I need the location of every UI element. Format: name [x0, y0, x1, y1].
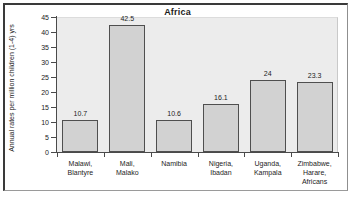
x-category-label-line: Malawi,: [57, 159, 104, 168]
y-tick-label: 0: [26, 149, 49, 156]
bar[interactable]: [297, 82, 333, 152]
bar[interactable]: [62, 120, 98, 152]
x-category-label: Namibia: [151, 159, 198, 168]
x-tick-mark: [291, 153, 292, 157]
x-category-label: Zimbabwe,Harare,Africans: [291, 159, 338, 186]
chart-title: Africa: [0, 7, 355, 17]
bar-chart-figure: Africa Annual rates per million children…: [0, 0, 355, 197]
y-tick-label: 25: [26, 74, 49, 81]
bar[interactable]: [203, 104, 239, 152]
y-tick-mark: [51, 122, 56, 123]
x-category-label-line: Kampala: [244, 168, 291, 177]
y-tick-label: 20: [26, 89, 49, 96]
x-category-label-line: Africans: [291, 177, 338, 186]
y-tick-mark: [51, 77, 56, 78]
y-tick-mark: [51, 137, 56, 138]
y-tick-mark: [51, 17, 56, 18]
y-tick-label: 15: [26, 104, 49, 111]
x-tick-mark: [151, 153, 152, 157]
x-tick-mark: [198, 153, 199, 157]
x-category-label-line: Blantyre: [57, 168, 104, 177]
x-tick-mark: [104, 153, 105, 157]
x-tick-mark: [338, 153, 339, 157]
x-category-label-line: Mali,: [104, 159, 151, 168]
x-category-label-line: Zimbabwe,: [291, 159, 338, 168]
x-category-label-line: Malako: [104, 168, 151, 177]
bar[interactable]: [109, 25, 145, 153]
y-tick-mark: [51, 32, 56, 33]
x-category-label-line: Harare,: [291, 168, 338, 177]
y-tick-label: 40: [26, 29, 49, 36]
bar[interactable]: [156, 120, 192, 152]
y-tick-label: 35: [26, 44, 49, 51]
bar-value-label: 42.5: [107, 15, 147, 23]
y-tick-mark: [51, 152, 56, 153]
y-tick-mark: [51, 92, 56, 93]
x-category-label-line: Namibia: [151, 159, 198, 168]
bar-value-label: 10.6: [154, 110, 194, 118]
x-category-label: Uganda,Kampala: [244, 159, 291, 177]
bar-value-label: 16.1: [201, 94, 241, 102]
bar-value-label: 23.3: [295, 72, 335, 80]
x-category-label: Nigeria,Ibadan: [198, 159, 245, 177]
x-tick-mark: [244, 153, 245, 157]
x-category-label-line: Ibadan: [198, 168, 245, 177]
y-tick-label: 10: [26, 119, 49, 126]
x-tick-mark: [57, 153, 58, 157]
bar-value-label: 24: [248, 70, 288, 78]
x-category-label-line: Uganda,: [244, 159, 291, 168]
y-tick-label: 45: [26, 14, 49, 21]
x-category-label: Malawi,Blantyre: [57, 159, 104, 177]
y-tick-label: 30: [26, 59, 49, 66]
y-axis-line: [56, 16, 57, 153]
bar[interactable]: [250, 80, 286, 152]
x-category-label: Mali,Malako: [104, 159, 151, 177]
y-tick-mark: [51, 47, 56, 48]
y-tick-mark: [51, 107, 56, 108]
bar-value-label: 10.7: [60, 110, 100, 118]
y-axis-title: Annual rates per million children (1-4) …: [6, 18, 18, 158]
y-tick-mark: [51, 62, 56, 63]
x-category-label-line: Nigeria,: [198, 159, 245, 168]
y-tick-label: 5: [26, 134, 49, 141]
